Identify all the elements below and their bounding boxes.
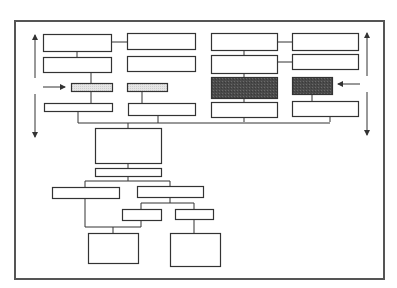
flow-block-m1 <box>128 34 196 50</box>
flow-block-f2 <box>171 234 221 267</box>
flow-block-f1 <box>89 234 139 264</box>
flow-block-s1 <box>293 34 359 51</box>
flow-block-l2 <box>44 58 112 73</box>
flow-block-r4 <box>212 103 278 118</box>
flow-block-r1 <box>212 34 278 51</box>
flow-block-s2 <box>293 55 359 70</box>
flow-block-d1 <box>53 188 120 199</box>
flow-block-r3 <box>212 78 278 99</box>
flowchart-canvas <box>0 0 397 288</box>
flow-block-m3 <box>128 84 168 92</box>
flow-block-c2 <box>96 169 162 177</box>
flow-block-l1 <box>44 35 112 52</box>
flow-block-l4 <box>45 104 113 112</box>
flow-block-s4 <box>293 102 359 117</box>
flow-block-m4 <box>129 104 196 116</box>
flow-block-l3 <box>72 84 113 92</box>
flow-block-s3 <box>293 78 333 95</box>
flow-block-r2 <box>212 56 278 74</box>
flow-block-m2 <box>128 57 196 72</box>
flow-block-e2 <box>176 210 214 220</box>
flow-block-c1 <box>96 129 162 164</box>
flow-block-e1 <box>123 210 162 221</box>
flow-block-d2 <box>138 187 204 198</box>
flow-blocks <box>44 34 359 267</box>
